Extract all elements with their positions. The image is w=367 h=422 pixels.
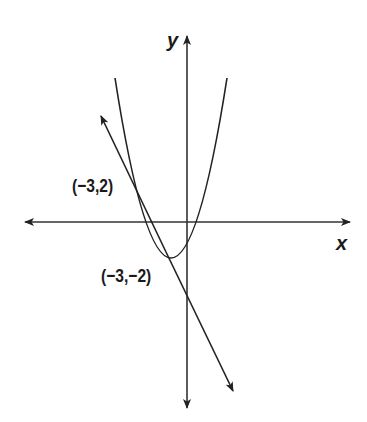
x-axis-label: x bbox=[336, 233, 347, 253]
coordinate-graph bbox=[0, 0, 367, 422]
point-label-lower: (−3,−2) bbox=[101, 266, 151, 285]
point-label-upper: (−3,2) bbox=[72, 176, 113, 195]
line-curve-lower bbox=[166, 252, 233, 391]
parabola-curve bbox=[115, 78, 227, 258]
y-axis-label: y bbox=[167, 30, 178, 50]
